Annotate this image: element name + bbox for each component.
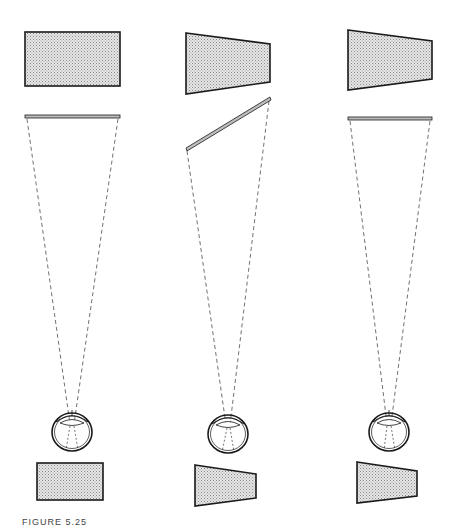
eye-icon [369, 410, 409, 451]
sight-lines [350, 121, 430, 424]
retinal-image-rectangle [37, 463, 103, 500]
object-rectangle [25, 32, 120, 86]
picture-plane-slanted [186, 97, 271, 151]
figure-caption: FIGURE 5.25 [22, 517, 87, 527]
eye-icon [208, 415, 248, 453]
panel-right [348, 30, 432, 503]
perspective-figure [0, 0, 453, 527]
panel-middle [186, 33, 271, 506]
picture-plane-frontal [25, 115, 120, 118]
object-trapezoid [186, 33, 270, 94]
sight-lines [187, 101, 269, 425]
eye-icon [52, 410, 92, 451]
picture-plane-frontal [348, 117, 432, 120]
retinal-image-trapezoid [357, 462, 417, 503]
retinal-image-trapezoid [195, 465, 256, 506]
sight-lines [27, 119, 118, 424]
object-trapezoid [348, 30, 432, 90]
panel-left [25, 32, 120, 500]
